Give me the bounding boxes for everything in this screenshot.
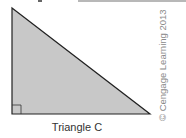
triangle-label: Triangle C — [0, 121, 154, 133]
copyright-notice: © Cengage Learning 2013 — [157, 51, 168, 121]
right-triangle — [12, 8, 150, 114]
